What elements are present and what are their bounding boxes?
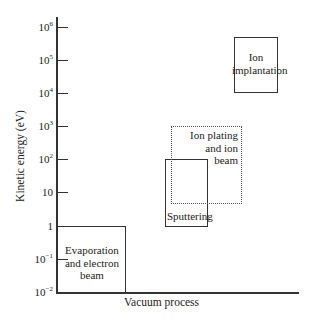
tick-label-1e3: 103 [39, 120, 54, 132]
tick-label-1e5: 105 [39, 54, 54, 66]
label-ion-plating: Ion plating and ion beam [178, 129, 238, 167]
tick-label-1e2: 102 [39, 153, 54, 165]
label-ion-implantation: Ion implantation [232, 51, 280, 76]
x-axis-label: Vacuum process [124, 296, 199, 308]
label-sputtering: Sputtering [167, 210, 213, 223]
tick-1e1 [57, 192, 68, 193]
tick-label-1e6: 106 [39, 21, 54, 33]
tick-label-1e-1: 10−1 [35, 253, 53, 265]
tick-label-10: 10 [42, 186, 53, 198]
tick-1e3 [57, 126, 68, 127]
y-axis-label: Kinetic energy (eV) [14, 96, 26, 216]
tick-1e4 [57, 93, 68, 94]
tick-1e6 [57, 27, 68, 28]
tick-1e2 [57, 159, 68, 160]
label-evaporation: Evaporation and electron beam [64, 244, 120, 282]
tick-label-1: 1 [48, 220, 54, 232]
tick-label-1e4: 104 [39, 87, 54, 99]
tick-1e5 [57, 60, 68, 61]
tick-label-1e-2: 10−2 [35, 286, 53, 298]
